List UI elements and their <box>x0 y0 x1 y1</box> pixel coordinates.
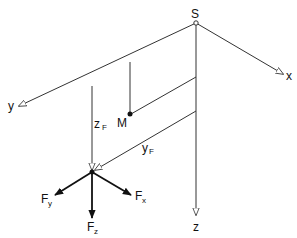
force-fy-label: F y <box>41 192 52 208</box>
svg-text:F: F <box>149 147 154 156</box>
y-axis-label: y <box>8 99 14 113</box>
x-axis <box>196 23 283 74</box>
svg-text:y: y <box>142 141 148 155</box>
force-fy-arrow <box>55 172 92 195</box>
svg-text:F: F <box>102 123 107 132</box>
origin-label: S <box>191 7 199 21</box>
svg-text:z: z <box>94 227 98 236</box>
yf-label: y F <box>142 141 154 156</box>
m-horizontal-line <box>131 77 196 114</box>
svg-text:y: y <box>48 199 52 208</box>
origin-point <box>194 21 198 25</box>
z-axis-label: z <box>193 220 199 234</box>
zf-label: z F <box>94 117 107 132</box>
coordinate-diagram: S x y z M z F y F F x F y F z <box>0 0 297 238</box>
point-m <box>128 112 133 117</box>
svg-text:z: z <box>94 117 100 131</box>
y-axis <box>19 23 196 106</box>
force-fz-label: F z <box>87 220 98 236</box>
svg-text:x: x <box>142 196 146 205</box>
force-fx-label: F x <box>135 189 146 205</box>
x-axis-label: x <box>286 69 292 83</box>
point-m-label: M <box>117 116 127 130</box>
force-fx-arrow <box>92 172 131 195</box>
